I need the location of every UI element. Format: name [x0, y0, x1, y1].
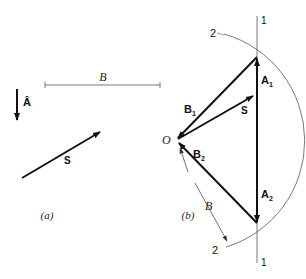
length-label-b2: B [205, 199, 213, 213]
svg-text:B2: B2 [193, 148, 205, 162]
line1-bottom-label: 1 [261, 257, 267, 268]
vector-a2-sub: 2 [269, 195, 273, 202]
origin-label: O [162, 133, 171, 147]
svg-text:B1: B1 [184, 103, 196, 117]
panel-a: B Â S (a) [17, 70, 160, 222]
caption-b: (b) [182, 209, 195, 222]
vector-b1-sub: 1 [192, 110, 196, 117]
arc2-bottom-label: 2 [212, 244, 218, 256]
vector-b2-label: B [193, 148, 201, 160]
vector-b1: B1 [178, 57, 257, 138]
vector-a1: A1 [257, 59, 273, 96]
length-bar-b: B [45, 70, 160, 88]
arc2-top-label: 2 [210, 27, 216, 39]
length-label-b: B [99, 70, 107, 84]
vector-b1-label: B [184, 103, 192, 115]
panel-b: 1 1 2 2 B O B1 S A1 [162, 15, 305, 268]
unit-vector-label: Â [23, 96, 31, 108]
caption-a: (a) [41, 209, 54, 222]
svg-text:A1: A1 [261, 74, 273, 88]
vector-a2-label: A [261, 188, 269, 200]
unit-vector-a-hat: Â [17, 89, 31, 120]
vector-a1-sub: 1 [269, 81, 273, 88]
line1-top-label: 1 [261, 15, 267, 26]
vector-diagram: B Â S (a) 1 1 2 2 B [0, 0, 306, 279]
vector-s-label: S [64, 155, 71, 166]
vector-s-b-label: S [241, 105, 248, 116]
vector-s-a: S [22, 132, 100, 178]
svg-text:A2: A2 [261, 188, 273, 202]
vector-a2: A2 [257, 96, 273, 222]
vector-a1-label: A [261, 74, 269, 86]
vector-b2-sub: 2 [201, 155, 205, 162]
